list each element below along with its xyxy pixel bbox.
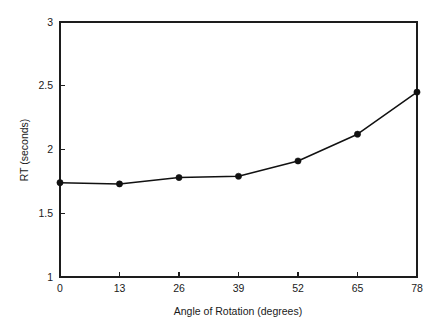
- x-tick-label: 52: [292, 282, 304, 294]
- x-tick-label: 0: [57, 282, 63, 294]
- y-tick-label: 2: [47, 143, 53, 155]
- x-tick-label: 65: [352, 282, 364, 294]
- data-point: [295, 158, 301, 164]
- y-tick-label: 2.5: [38, 79, 53, 91]
- chart-figure: 0132639526578 11.522.53 Angle of Rotatio…: [0, 0, 446, 329]
- data-point: [57, 180, 63, 186]
- line-chart: 0132639526578 11.522.53 Angle of Rotatio…: [0, 0, 446, 329]
- data-point: [354, 131, 360, 137]
- y-tick-label: 3: [47, 16, 53, 28]
- x-tick-label: 78: [411, 282, 423, 294]
- y-axis-title: RT (seconds): [18, 119, 30, 182]
- x-tick-label: 13: [114, 282, 126, 294]
- x-axis-title: Angle of Rotation (degrees): [174, 305, 302, 317]
- data-point: [176, 174, 182, 180]
- data-point: [414, 89, 420, 95]
- x-axis-ticks: [60, 272, 417, 277]
- chart-axes: [60, 22, 417, 277]
- x-tick-label: 26: [173, 282, 185, 294]
- y-tick-label: 1: [47, 271, 53, 283]
- y-axis-tick-labels: 11.522.53: [38, 16, 53, 283]
- data-point-markers: [57, 89, 420, 187]
- x-axis-tick-labels: 0132639526578: [57, 282, 423, 294]
- x-tick-label: 39: [233, 282, 245, 294]
- data-point: [235, 173, 241, 179]
- data-point: [116, 181, 122, 187]
- data-series-line: [60, 92, 417, 184]
- y-axis-ticks: [60, 22, 65, 277]
- y-tick-label: 1.5: [38, 207, 53, 219]
